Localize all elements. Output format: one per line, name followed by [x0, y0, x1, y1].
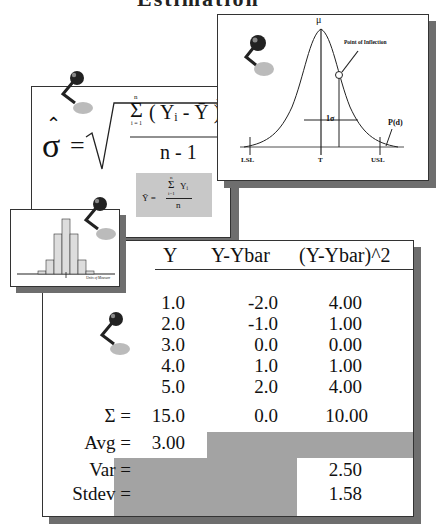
table-cell: 0.0	[218, 334, 278, 356]
empty-shaded-cells-var-stdev	[114, 458, 297, 516]
table-cell: 1.0	[218, 355, 278, 377]
column-header-y: Y	[163, 244, 177, 267]
mu-label: μ	[316, 14, 321, 25]
numerator: ( Yᵢ - Ȳ )	[149, 101, 220, 124]
sigma-hat-symbol: ⌃ σ	[42, 127, 60, 165]
column-header-squared-deviation: (Y-Ybar)^2	[299, 244, 391, 267]
pushpin-icon	[57, 70, 97, 114]
pd-label: P(d)	[388, 118, 403, 127]
table-cell: -2.0	[218, 292, 278, 314]
stdev-value: 1.58	[302, 483, 362, 505]
page-title: Estimation	[137, 0, 260, 12]
histogram-axis-label: Units of Measure	[86, 276, 110, 280]
denominator: n - 1	[160, 141, 197, 164]
sum-deviation: 0.0	[218, 405, 278, 427]
lsl-label: LSL	[241, 156, 254, 164]
avg-value: 3.00	[125, 432, 185, 454]
header-rule	[155, 269, 413, 270]
pushpin-icon	[96, 311, 136, 355]
table-cell: -1.0	[218, 313, 278, 335]
usl-label: USL	[371, 156, 385, 164]
pushpin-icon	[80, 196, 120, 240]
mean-formula-box: Ȳ = n Σ i=1 Yᵢ n	[136, 173, 212, 217]
column-header-y-minus-ybar: Y-Ybar	[211, 244, 270, 267]
table-cell: 5.0	[125, 376, 185, 398]
table-cell: 1.00	[302, 355, 362, 377]
table-cell: 2.0	[218, 376, 278, 398]
empty-shaded-cells-avg-row	[207, 432, 413, 458]
inflection-label: Point of Inflection	[344, 39, 386, 45]
table-cell: 4.00	[302, 292, 362, 314]
target-label: T	[318, 156, 323, 164]
table-cell: 4.0	[125, 355, 185, 377]
stdev-label: Stdev =	[41, 483, 131, 505]
sum-y: 15.0	[125, 405, 185, 427]
table-cell: 0.00	[302, 334, 362, 356]
pushpin-icon	[240, 33, 280, 77]
avg-label: Avg =	[41, 432, 131, 454]
sum-bottom: i = 1	[131, 120, 142, 126]
equals-sign: =	[70, 131, 85, 161]
var-value: 2.50	[302, 459, 362, 481]
sum-label: Σ =	[71, 405, 131, 427]
var-label: Var =	[41, 459, 131, 481]
sum-squared-deviation: 10.00	[308, 405, 368, 427]
sigma-label: 1σ	[326, 114, 334, 123]
table-cell: 4.00	[302, 376, 362, 398]
table-cell: 1.00	[302, 313, 362, 335]
